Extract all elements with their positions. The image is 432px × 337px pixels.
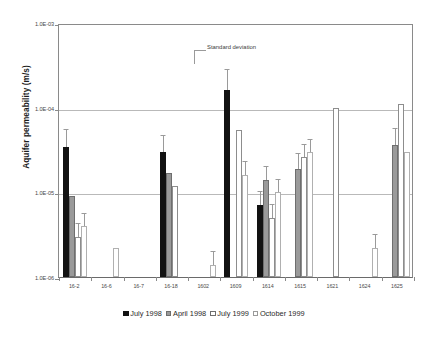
error-bar-cap (243, 161, 248, 162)
bar-slot (275, 25, 281, 277)
x-tick-mark (91, 277, 92, 281)
legend-swatch (210, 311, 216, 317)
chart-legend: July 1998April 1998July 1999October 1999 (0, 309, 432, 318)
x-tick-label: 16-6 (90, 283, 122, 289)
bar-group (382, 25, 414, 277)
y-axis-title: Aquifer permeability (m/s) (22, 37, 36, 197)
bar-group (253, 25, 285, 277)
bar-slot (210, 25, 216, 277)
error-bar (304, 145, 305, 157)
x-tick-label: 1615 (284, 283, 316, 289)
bar-group (188, 25, 220, 277)
error-bar-cap (257, 191, 262, 192)
error-bar (66, 130, 67, 147)
bar (81, 226, 87, 277)
bar-slot (339, 25, 345, 277)
bar-group (124, 25, 156, 277)
x-tick-label: 1602 (187, 283, 219, 289)
x-tick-label: 16-2 (58, 283, 90, 289)
bar-group (91, 25, 123, 277)
legend-item: April 1998 (166, 309, 206, 318)
x-tick-label: 1624 (348, 283, 380, 289)
error-bar-cap (308, 139, 313, 140)
bar-slot (146, 25, 152, 277)
annotation-leader-horizontal (194, 50, 206, 51)
error-bar-cap (263, 166, 268, 167)
error-bar-cap (160, 135, 165, 136)
chart-root: Aquifer permeability (m/s) 1.0E-031.0E-0… (0, 0, 432, 337)
error-bar (298, 154, 299, 168)
error-bar (84, 214, 85, 226)
error-bar (163, 136, 164, 152)
error-bar (310, 140, 311, 152)
legend-swatch (166, 311, 172, 317)
bar (404, 152, 410, 277)
x-tick-mark (285, 277, 286, 281)
y-tick-label: 1.0E-04 (10, 106, 54, 112)
bar-group (59, 25, 91, 277)
bar (113, 248, 119, 277)
error-bar (395, 129, 396, 145)
plot-area (58, 24, 413, 278)
bar-slot (372, 25, 378, 277)
bar-group (285, 25, 317, 277)
bar-slot (242, 25, 248, 277)
error-bar-cap (296, 153, 301, 154)
x-tick-mark (414, 277, 415, 281)
legend-item: July 1999 (210, 309, 249, 318)
bar (307, 152, 313, 277)
bar (242, 175, 248, 277)
error-bar (278, 180, 279, 192)
legend-label: July 1999 (217, 309, 249, 318)
x-tick-mark (382, 277, 383, 281)
bar (275, 192, 281, 277)
x-tick-mark (317, 277, 318, 281)
x-tick-mark (156, 277, 157, 281)
x-tick-mark (59, 277, 60, 281)
error-bar-cap (82, 213, 87, 214)
legend-label: October 1999 (260, 309, 305, 318)
bar-group (220, 25, 252, 277)
legend-label: July 1998 (130, 309, 162, 318)
error-bar (375, 235, 376, 248)
bar-slot (404, 25, 410, 277)
standard-deviation-annotation: Standard deviation (207, 44, 256, 50)
bar-group (317, 25, 349, 277)
y-tick-label: 1.0E-03 (10, 21, 54, 27)
error-bar-cap (372, 234, 377, 235)
error-bar-cap (211, 251, 216, 252)
y-tick-label: 1.0E-05 (10, 190, 54, 196)
x-tick-label: 1621 (316, 283, 348, 289)
x-tick-label: 1609 (219, 283, 251, 289)
legend-item: July 1998 (123, 309, 162, 318)
bar-slot (81, 25, 87, 277)
x-tick-mark (253, 277, 254, 281)
x-tick-label: 16-7 (123, 283, 155, 289)
x-tick-mark (220, 277, 221, 281)
x-tick-mark (349, 277, 350, 281)
bar-group (156, 25, 188, 277)
error-bar (245, 162, 246, 175)
legend-label: April 1998 (173, 309, 206, 318)
bar (372, 248, 378, 277)
bar-slot (307, 25, 313, 277)
error-bar (227, 70, 228, 91)
bar-slot (113, 25, 119, 277)
legend-swatch (253, 311, 259, 317)
x-tick-label: 1625 (381, 283, 413, 289)
legend-item: October 1999 (253, 309, 305, 318)
error-bar (213, 252, 214, 265)
x-tick-mark (188, 277, 189, 281)
error-bar-cap (64, 129, 69, 130)
error-bar (78, 224, 79, 236)
annotation-leader-vertical (194, 50, 195, 64)
legend-swatch (123, 311, 129, 317)
error-bar-cap (392, 128, 397, 129)
error-bar-cap (76, 223, 81, 224)
bar (210, 265, 216, 277)
error-bar-cap (275, 179, 280, 180)
x-tick-label: 1614 (252, 283, 284, 289)
x-tick-label: 16-18 (155, 283, 187, 289)
error-bar-cap (302, 144, 307, 145)
error-bar-cap (225, 69, 230, 70)
